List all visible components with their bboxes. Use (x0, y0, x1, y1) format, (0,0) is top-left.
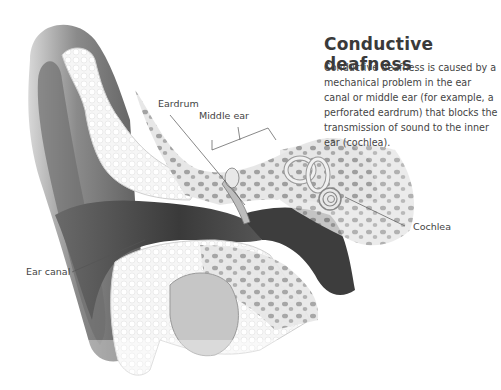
label-middle-ear: Middle ear (199, 110, 249, 121)
label-eardrum: Eardrum (158, 98, 199, 109)
cochlea-shape (319, 188, 341, 210)
label-ear-canal: Ear canal (26, 266, 70, 277)
label-cochlea: Cochlea (413, 221, 451, 232)
middle-ear-bracket (212, 128, 276, 150)
description-paragraph: Conductive deafness is caused by a mecha… (324, 60, 499, 150)
